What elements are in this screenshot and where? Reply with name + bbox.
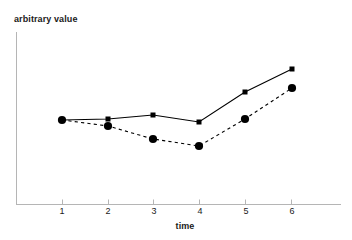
circle-marker-5 [241,115,249,123]
x-tick-label-1: 1 [52,206,72,216]
square-marker-6 [290,67,295,72]
circle-marker-2 [104,122,112,130]
x-tick-label-5: 5 [236,206,256,216]
line-chart-plot [0,0,352,240]
x-tick-label-3: 3 [144,206,164,216]
x-tick-label-6: 6 [282,206,302,216]
square-marker-4 [197,120,202,125]
square-marker-2 [106,117,111,122]
chart-figure: arbitrary value [0,0,352,240]
x-tick-label-2: 2 [98,206,118,216]
circle-marker-3 [149,135,157,143]
x-axis-ticks [63,200,292,205]
dashed-line-path [62,88,292,146]
series-circle-dashed-line [58,84,296,150]
circle-marker-1 [58,116,66,124]
series-square-solid-line [60,67,295,125]
square-marker-3 [151,113,156,118]
square-marker-5 [243,90,248,95]
x-tick-label-4: 4 [190,206,210,216]
circle-marker-6 [288,84,296,92]
solid-line-path [62,69,292,122]
x-axis-label: time [0,221,352,231]
circle-marker-4 [195,142,203,150]
